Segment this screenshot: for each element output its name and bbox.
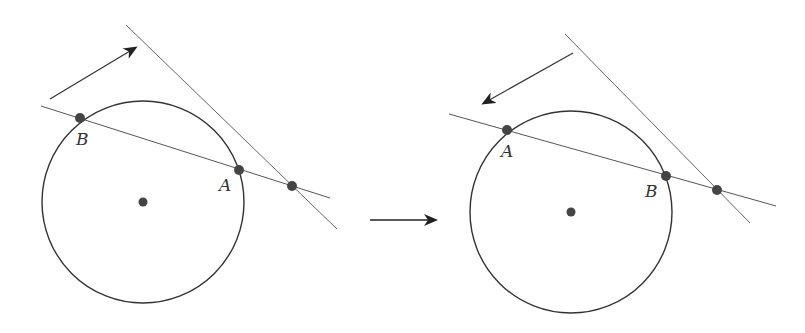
diagram-canvas: BA AB [0,0,805,333]
point-label-a: A [499,141,513,161]
left-panel: BA [41,25,337,303]
center-point [139,198,148,207]
point-b [661,171,671,181]
intersection-points: BA [75,113,297,195]
point-label-b: B [644,181,658,201]
right-panel: AB [449,34,776,313]
point-label-b: B [75,129,89,149]
tangent-line [126,25,337,229]
external-intersection-point [712,185,722,195]
intersection-points: AB [499,125,722,201]
tangent-line [565,34,750,223]
point-a [502,125,512,135]
point-b [75,113,85,123]
arrow-down-left-icon [484,53,573,103]
center-point [567,208,576,217]
external-intersection-point [287,181,297,191]
point-label-a: A [217,175,231,195]
arrow-up-right-icon [50,48,135,99]
secant-line [449,114,776,206]
point-a [234,165,244,175]
